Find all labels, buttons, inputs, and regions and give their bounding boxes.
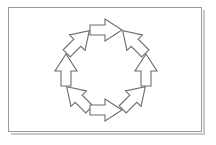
panel-shadow-bottom: [11, 133, 205, 135]
diagram-panel: [8, 7, 202, 132]
arrow-left: [55, 54, 77, 86]
arrow-bottom: [90, 99, 122, 121]
panel-shadow-right: [203, 10, 205, 135]
cycle-diagram: [9, 8, 203, 133]
arrow-top: [90, 19, 122, 41]
arrow-right: [135, 54, 157, 86]
screenshot-root: [0, 0, 216, 145]
